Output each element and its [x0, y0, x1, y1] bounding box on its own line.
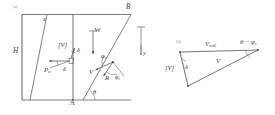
label-wedge-velocity-V-b: V — [216, 58, 220, 65]
label-velocity-jump-b: [V] — [165, 65, 174, 72]
label-wedge-velocity-V-a: V — [89, 69, 93, 76]
label-vertex-B: B — [126, 4, 130, 11]
hodograph-vertex-right — [257, 49, 259, 51]
panel-b-caption: (b) — [176, 40, 181, 44]
wall-velocity-vector-line — [180, 50, 258, 52]
label-phi-lower-sub: s — [118, 77, 120, 81]
label-wall-height-H: H — [13, 48, 18, 55]
label-delta-lower: δ — [63, 66, 66, 72]
panel-a-caption: (a) — [13, 5, 18, 9]
label-theta-minus-phi: θ − φs — [240, 39, 256, 46]
label-vertex-A: A — [70, 100, 74, 107]
label-axis-y: y — [143, 50, 146, 56]
label-phi-upper-sub: s — [104, 56, 106, 60]
label-soil-reaction-R: R — [105, 75, 109, 82]
label-phi-upper: φs — [101, 53, 106, 61]
wall-reaction-inclined-line — [50, 61, 69, 68]
label-wall-reaction-P: Pw — [44, 67, 51, 74]
hodograph-vertex-bottom — [187, 85, 189, 87]
figure-canvas — [0, 0, 275, 115]
label-weight-W: W — [95, 27, 101, 34]
label-wall-velocity-sub: wall — [209, 43, 216, 48]
label-vertex-x: x — [43, 16, 46, 22]
label-theta-a: θ — [93, 89, 96, 95]
figure-container: (a) x B A H y W [V] δ δ Pw θ φs V R φs (… — [0, 0, 275, 115]
label-delta-upper: δ — [77, 47, 80, 53]
hodograph-vertex-top-left — [179, 51, 181, 53]
panel-a-geometry — [22, 15, 145, 101]
label-theta-minus-phi-base: θ − φ — [240, 38, 255, 45]
label-wall-velocity: Vwall — [205, 41, 216, 48]
velocity-discontinuity-line — [30, 15, 47, 101]
label-wall-reaction-P-sub: w — [48, 69, 51, 74]
label-velocity-jump-a: [V] — [58, 42, 67, 49]
failure-plane-line — [83, 15, 131, 101]
label-delta-b: δ — [185, 64, 188, 70]
label-theta-minus-phi-sub: s — [255, 41, 257, 46]
panel-b-geometry — [179, 49, 259, 87]
label-phi-lower: φs — [115, 74, 120, 82]
